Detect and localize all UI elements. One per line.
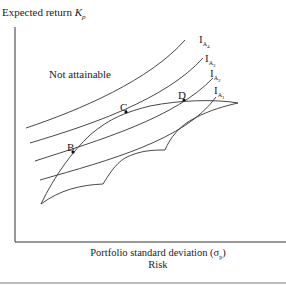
point-c-label: C — [120, 101, 127, 113]
curve-label-a1-subsub: 1 — [222, 95, 225, 100]
x-axis-label: Portfolio standard deviation (σp) — [0, 248, 286, 260]
diagram-canvas — [0, 0, 286, 286]
not-attainable-label: Not attainable — [49, 69, 111, 80]
curve-label-a2-subsub: 2 — [218, 78, 221, 83]
y-axis-label-symbol: Kp — [75, 6, 86, 18]
y-axis-symbol-k: K — [75, 6, 82, 18]
curve-label-a4: IA4 — [199, 33, 210, 49]
point-d-label: D — [178, 89, 186, 101]
x-axis-sublabel: Risk — [0, 260, 286, 271]
indifference-curve-a1 — [40, 97, 216, 180]
attainable-set-lower-boundary — [41, 103, 238, 204]
indifference-curve-a2 — [35, 78, 213, 161]
x-axis-label-text: Portfolio standard deviation (σ — [90, 247, 219, 258]
point-b-label: B — [67, 141, 74, 153]
curve-label-a4-subsub: 4 — [207, 44, 210, 49]
curve-label-a1: IA1 — [214, 84, 225, 100]
bottom-rule-divider — [0, 282, 286, 284]
y-axis-symbol-sub: p — [82, 13, 86, 21]
x-axis-label-close: ) — [222, 247, 226, 258]
curve-label-a3: IA3 — [205, 52, 216, 68]
y-axis-label-text: Expected return — [2, 6, 75, 18]
indifference-curve-a4 — [26, 40, 185, 128]
y-axis-label: Expected return Kp — [2, 7, 86, 21]
curve-label-a2: IA2 — [210, 67, 221, 83]
